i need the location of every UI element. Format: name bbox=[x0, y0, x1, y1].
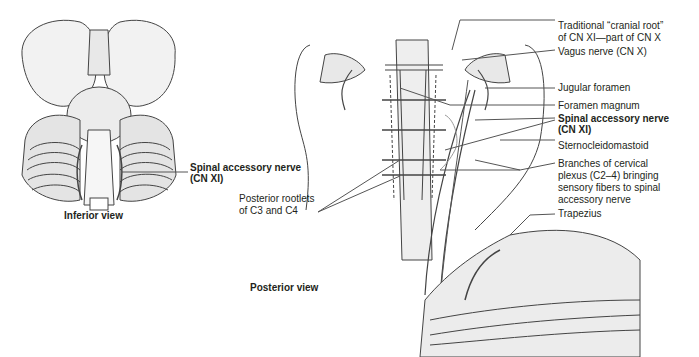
view-title-posterior: Posterior view bbox=[250, 282, 318, 294]
label-rootlets-line1: Posterior rootlets bbox=[239, 193, 315, 205]
label-branches-line1: Branches of cervical bbox=[558, 158, 648, 170]
label-vagus-nerve: Vagus nerve (CN X) bbox=[558, 46, 647, 58]
label-cranial-root-line2: of CN XI—part of CN X bbox=[558, 32, 661, 44]
label-branches-line4: accessory nerve bbox=[558, 194, 631, 206]
label-branches-line2: plexus (C2–4) bringing bbox=[558, 170, 659, 182]
leader-rootlets-1 bbox=[318, 160, 400, 212]
label-jugular-foramen: Jugular foramen bbox=[558, 82, 630, 94]
view-title-inferior: Inferior view bbox=[64, 210, 123, 222]
leader-branches-1 bbox=[475, 160, 555, 170]
leader-rootlets-2 bbox=[318, 176, 400, 212]
brain-inferior-drawing bbox=[22, 20, 176, 210]
leader-vagus bbox=[462, 50, 555, 60]
label-inferior-spinal-accessory-line2: (CN XI) bbox=[190, 173, 223, 185]
label-sternocleidomastoid: Sternocleidomastoid bbox=[558, 140, 649, 152]
label-cranial-root-line1: Traditional “cranial root” bbox=[558, 20, 663, 32]
label-posterior-spinal-accessory-line2: (CN XI) bbox=[558, 124, 591, 136]
label-rootlets-line2: of C3 and C4 bbox=[239, 205, 298, 217]
label-foramen-magnum: Foramen magnum bbox=[558, 100, 640, 112]
label-branches-line3: sensory fibers to spinal bbox=[558, 182, 660, 194]
leader-cranial-root bbox=[452, 20, 555, 50]
label-trapezius: Trapezius bbox=[558, 208, 602, 220]
